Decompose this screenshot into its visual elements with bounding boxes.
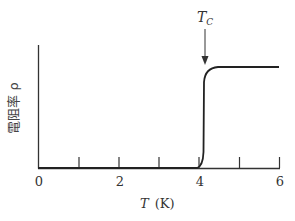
x-axis-label: T(K) bbox=[140, 196, 175, 211]
resistivity-curve bbox=[38, 67, 279, 168]
tc-label: TC bbox=[197, 9, 213, 27]
x-tick-label-6: 6 bbox=[276, 174, 284, 189]
x-tick-label-0: 0 bbox=[35, 174, 43, 189]
tc-arrow-head-icon bbox=[202, 56, 209, 65]
y-axis-label: 電阻率 ρ bbox=[6, 82, 21, 133]
resistivity-chart: 0 2 4 6 T(K) 電阻率 ρ TC bbox=[0, 0, 295, 221]
x-tick-label-4: 4 bbox=[196, 174, 204, 189]
x-tick-label-2: 2 bbox=[116, 174, 124, 189]
x-ticks bbox=[79, 157, 280, 168]
